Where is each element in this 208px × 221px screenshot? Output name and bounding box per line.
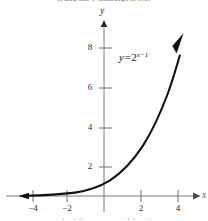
exponential-curve bbox=[24, 56, 180, 196]
equation-exponent: x−1 bbox=[137, 51, 148, 59]
y-tick-label-2: 2 bbox=[84, 161, 96, 171]
curve-left-arrowhead-icon bbox=[19, 193, 30, 200]
curve-right-arrowhead-icon bbox=[172, 33, 183, 53]
x-tick-label-2: 2 bbox=[135, 203, 147, 213]
x-tick-label-minus2: −2 bbox=[58, 203, 76, 213]
y-axis-arrowhead-icon bbox=[101, 20, 108, 27]
equation-operator: = bbox=[124, 52, 132, 63]
x-axis-arrowhead-icon bbox=[193, 193, 201, 200]
y-tick-label-4: 4 bbox=[84, 122, 96, 132]
equation-lhs: y bbox=[119, 52, 124, 63]
y-tick-label-6: 6 bbox=[84, 82, 96, 92]
equation-annotation: y=2x−1 bbox=[119, 52, 148, 63]
y-axis-label: y bbox=[100, 6, 104, 16]
plot-area bbox=[0, 0, 208, 220]
clipped-caption-bottom: graph of the exponential function bbox=[0, 218, 208, 221]
exponential-function-figure: f, and the y-intercept is 0.5. y x 8 6 4… bbox=[0, 0, 208, 220]
x-axis-label: x bbox=[202, 190, 206, 200]
y-tick-label-8: 8 bbox=[84, 42, 96, 52]
x-tick-label-4: 4 bbox=[172, 203, 184, 213]
x-tick-label-minus4: −4 bbox=[24, 203, 42, 213]
